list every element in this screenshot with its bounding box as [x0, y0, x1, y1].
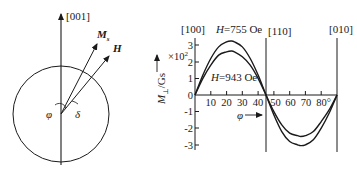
dir-110-label: [110] — [268, 25, 291, 37]
chart: M⊥/Gs ×102 [100] [110] [010] 3 2 1 0 -1 … — [155, 23, 353, 152]
svg-text:20: 20 — [221, 97, 232, 108]
ms-vector — [61, 44, 97, 114]
svg-text:1: 1 — [188, 73, 193, 84]
svg-text:0: 0 — [188, 90, 193, 101]
axis-001-label: [001] — [66, 10, 90, 22]
figure: [001] Ms H φ δ M⊥/Gs ×102 [100] [110] [0… — [0, 0, 357, 172]
svg-text:70: 70 — [301, 97, 312, 108]
phi-label: φ — [46, 108, 52, 120]
svg-text:3: 3 — [188, 40, 193, 51]
svg-text:60: 60 — [285, 97, 296, 108]
svg-text:80°: 80° — [316, 97, 331, 108]
h-label: H — [112, 42, 122, 54]
delta-label: δ — [75, 108, 81, 120]
svg-text:-3: -3 — [184, 140, 193, 151]
ms-label: Ms — [96, 28, 110, 43]
y-multiplier: ×102 — [168, 50, 188, 62]
svg-text:-2: -2 — [184, 123, 193, 134]
h-vector — [61, 56, 109, 114]
dir-010-label: [010] — [329, 23, 353, 35]
svg-text:2: 2 — [188, 57, 193, 68]
curve-755-label: H=755 Oe — [215, 23, 262, 35]
svg-text:10: 10 — [206, 97, 217, 108]
svg-text:40: 40 — [253, 97, 264, 108]
dir-100-label: [100] — [181, 23, 205, 35]
delta-arc — [72, 101, 78, 104]
x-axis-title: φ — [237, 109, 243, 121]
svg-text:M⊥/Gs: M⊥/Gs — [155, 73, 170, 105]
curve-943-label: H=943 Oe — [210, 71, 257, 83]
crystal-diagram: [001] Ms H φ δ — [13, 10, 122, 165]
y-axis-title: M⊥/Gs — [155, 73, 170, 105]
svg-text:-1: -1 — [184, 106, 193, 117]
svg-text:30: 30 — [237, 97, 248, 108]
